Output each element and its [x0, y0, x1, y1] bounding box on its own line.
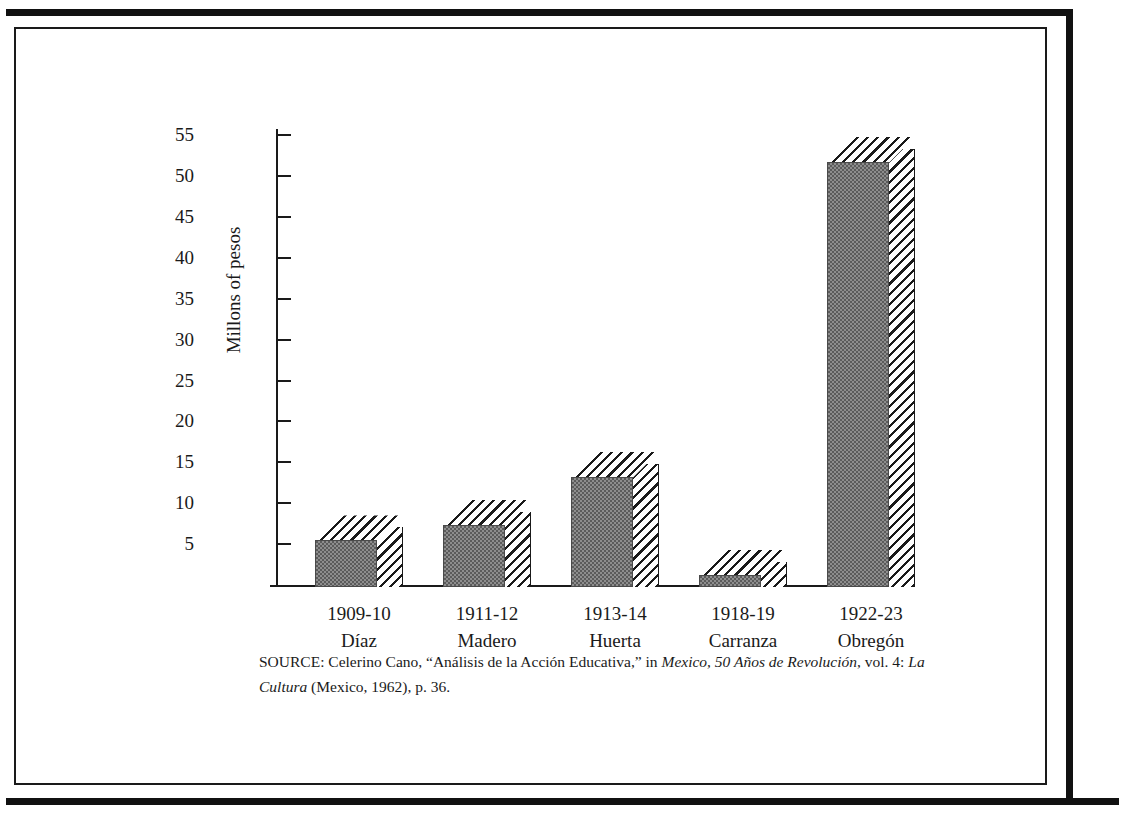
- y-axis-label: Millons of pesos: [223, 180, 245, 400]
- bar-front-face: [571, 477, 633, 587]
- y-tick-label: 5: [134, 534, 194, 553]
- bar-díaz: [315, 514, 403, 587]
- bottom-rule: [6, 798, 1119, 805]
- bar-front-face: [827, 162, 889, 587]
- bar-side-face: [889, 149, 915, 587]
- y-tick-mark: [278, 298, 291, 300]
- figure-page: Millons of pesos 555045403530252015105 1…: [0, 0, 1127, 827]
- bar-front-face: [443, 525, 505, 587]
- y-axis-line: [276, 129, 278, 587]
- bar-carranza: [699, 549, 787, 587]
- source-work-title: Mexico, 50 Años de Revolución: [662, 653, 858, 670]
- source-suffix: (Mexico, 1962), p. 36.: [307, 678, 450, 695]
- y-tick-mark: [278, 257, 291, 259]
- y-tick-mark: [278, 420, 291, 422]
- bar-madero: [443, 499, 531, 587]
- bar-obregón: [827, 136, 915, 587]
- bar-side-face: [633, 464, 659, 587]
- y-tick-label: 45: [134, 207, 194, 226]
- y-tick-mark: [278, 339, 291, 341]
- bar-front-face: [699, 575, 761, 587]
- y-tick-mark: [278, 175, 291, 177]
- y-tick-mark: [278, 380, 291, 382]
- plot-region: Millons of pesos 555045403530252015105 1…: [196, 129, 916, 589]
- y-tick-label: 40: [134, 248, 194, 267]
- y-tick-label: 35: [134, 289, 194, 308]
- y-tick-mark: [278, 502, 291, 504]
- y-tick-label: 20: [134, 411, 194, 430]
- y-tick-mark: [278, 543, 291, 545]
- right-rule: [1066, 9, 1073, 800]
- source-prefix: SOURCE: Celerino Cano, “Análisis de la A…: [259, 653, 662, 670]
- bar-front-face: [315, 540, 377, 587]
- bar-huerta: [571, 451, 659, 587]
- y-tick-label: 25: [134, 371, 194, 390]
- y-tick-label: 15: [134, 452, 194, 471]
- y-tick-label: 30: [134, 330, 194, 349]
- y-tick-mark: [278, 216, 291, 218]
- source-middle: , vol. 4:: [857, 653, 908, 670]
- category-period: 1922-23: [796, 601, 946, 628]
- y-tick-label: 50: [134, 166, 194, 185]
- y-tick-mark: [278, 461, 291, 463]
- figure-frame: Millons of pesos 555045403530252015105 1…: [14, 27, 1047, 785]
- top-rule: [6, 9, 1073, 16]
- category-label-obregón: 1922-23Obregón: [796, 601, 946, 655]
- chart-area: Millons of pesos 555045403530252015105 1…: [16, 29, 1049, 787]
- bar-side-face: [505, 512, 531, 587]
- y-tick-mark: [278, 134, 291, 136]
- y-tick-label: 55: [134, 125, 194, 144]
- y-tick-label: 10: [134, 493, 194, 512]
- source-note: SOURCE: Celerino Cano, “Análisis de la A…: [259, 649, 959, 699]
